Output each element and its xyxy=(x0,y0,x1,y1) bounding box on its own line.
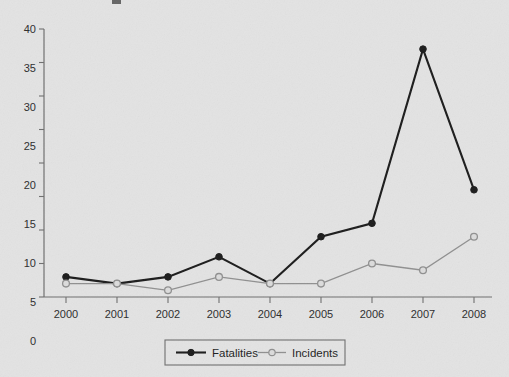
y-tick-label: 10 xyxy=(24,257,36,269)
x-tick-label: 2001 xyxy=(105,308,129,320)
x-axis-tick-labels: 2000 2001 2002 2003 2004 2005 2006 2007 … xyxy=(54,308,486,320)
open-circle-marker-icon xyxy=(269,349,275,355)
data-point-incidents-2007 xyxy=(420,267,427,274)
data-point-fatalities-2003 xyxy=(216,253,223,260)
data-point-fatalities-2006 xyxy=(369,220,376,227)
data-point-incidents-2002 xyxy=(165,287,172,294)
y-axis-tick-marks xyxy=(39,29,44,297)
x-tick-label: 2002 xyxy=(156,308,180,320)
data-point-incidents-2000 xyxy=(63,280,70,287)
data-point-incidents-2001 xyxy=(114,280,121,287)
y-tick-label: 25 xyxy=(24,140,36,152)
legend-label-incidents: Incidents xyxy=(292,347,338,359)
y-tick-label: 0 xyxy=(30,335,36,347)
y-tick-label: 40 xyxy=(24,23,36,35)
chart-legend: Fatalities Incidents xyxy=(165,340,345,365)
chart-canvas: 40 35 30 25 20 15 10 5 0 xyxy=(0,0,509,377)
y-tick-label: 5 xyxy=(30,296,36,308)
legend-label-fatalities: Fatalities xyxy=(212,347,258,359)
y-tick-label: 20 xyxy=(24,179,36,191)
x-axis-tick-marks xyxy=(66,297,474,303)
y-tick-label: 30 xyxy=(24,101,36,113)
data-point-incidents-2008 xyxy=(471,233,478,240)
data-point-fatalities-2005 xyxy=(318,233,325,240)
x-tick-label: 2007 xyxy=(411,308,435,320)
line-chart: 40 35 30 25 20 15 10 5 0 xyxy=(0,0,509,377)
data-point-incidents-2005 xyxy=(318,280,325,287)
data-point-incidents-2004 xyxy=(267,280,274,287)
y-tick-label: 35 xyxy=(24,62,36,74)
data-point-incidents-2003 xyxy=(216,274,223,281)
series-line-fatalities xyxy=(66,49,474,284)
y-axis-tick-labels: 40 35 30 25 20 15 10 5 0 xyxy=(24,23,36,347)
x-tick-label: 2005 xyxy=(309,308,333,320)
x-tick-label: 2003 xyxy=(207,308,231,320)
y-tick-label: 15 xyxy=(24,218,36,230)
x-tick-label: 2008 xyxy=(462,308,486,320)
x-tick-label: 2000 xyxy=(54,308,78,320)
data-point-fatalities-2007 xyxy=(420,46,427,53)
data-point-fatalities-2002 xyxy=(165,274,172,281)
data-point-incidents-2006 xyxy=(369,260,376,267)
x-tick-label: 2006 xyxy=(360,308,384,320)
x-tick-label: 2004 xyxy=(258,308,282,320)
data-point-fatalities-2000 xyxy=(63,274,70,281)
filled-circle-marker-icon xyxy=(188,349,194,355)
cropped-title-fragment xyxy=(112,0,121,4)
data-series-layer xyxy=(63,46,478,294)
data-point-fatalities-2008 xyxy=(471,187,478,194)
